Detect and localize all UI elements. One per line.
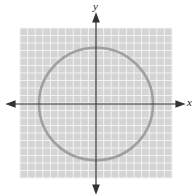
y-axis-up-arrow-icon <box>93 14 99 22</box>
x-axis-left-arrow-icon <box>7 101 15 107</box>
coordinate-plane <box>0 0 195 196</box>
x-axis-label: x <box>187 96 192 108</box>
x-axis-right-arrow-icon <box>176 101 184 107</box>
y-axis-label: y <box>93 0 98 12</box>
y-axis-down-arrow-icon <box>93 185 99 193</box>
